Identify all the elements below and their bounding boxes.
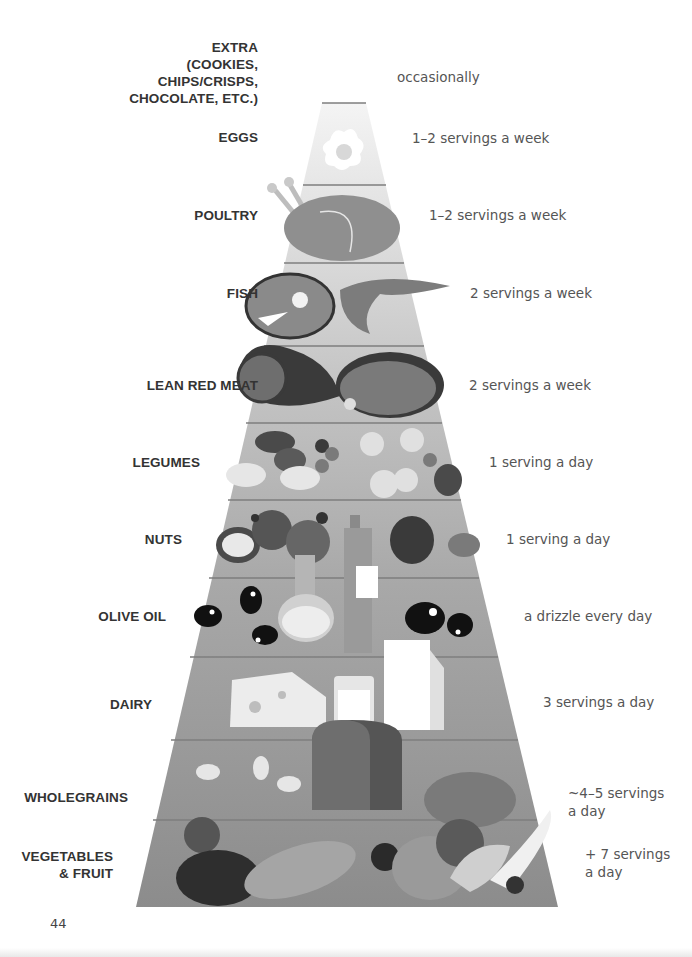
tier-label-wholegrains: WHOLEGRAINS — [24, 789, 128, 806]
serving-legumes: 1 serving a day — [489, 453, 593, 471]
serving-poultry: 1–2 servings a week — [429, 206, 566, 224]
tier-label-eggs: EGGS — [219, 129, 258, 146]
tier-label-nuts: NUTS — [145, 531, 182, 548]
tier-label-vegetables-fruit: VEGETABLES & FRUIT — [21, 848, 113, 882]
serving-wholegrains: ~4–5 servings a day — [568, 784, 664, 820]
serving-dairy: 3 servings a day — [543, 693, 654, 711]
tier-label-lean-red-meat: LEAN RED MEAT — [147, 377, 258, 394]
serving-extra: occasionally — [397, 68, 480, 86]
tier-label-olive-oil: OLIVE OIL — [98, 608, 166, 625]
steak-icon — [336, 352, 444, 418]
tier-label-extra: EXTRA (COOKIES, CHIPS/CRISPS, CHOCOLATE,… — [129, 39, 258, 107]
salmon-steak-icon — [246, 274, 334, 338]
page-number: 44 — [50, 916, 67, 931]
serving-nuts: 1 serving a day — [506, 530, 610, 548]
serving-fish: 2 servings a week — [470, 284, 592, 302]
serving-eggs: 1–2 servings a week — [412, 129, 549, 147]
serving-vegetables-fruit: + 7 servings a day — [585, 845, 670, 881]
page-edge-shadow — [0, 948, 692, 957]
serving-olive-oil: a drizzle every day — [524, 607, 652, 625]
extra-tier-fade — [322, 60, 366, 103]
serving-lean-red-meat: 2 servings a week — [469, 376, 591, 394]
tier-label-fish: FISH — [227, 285, 258, 302]
tier-label-legumes: LEGUMES — [133, 454, 200, 471]
tier-label-dairy: DAIRY — [110, 696, 152, 713]
tier-label-poultry: POULTRY — [194, 207, 258, 224]
